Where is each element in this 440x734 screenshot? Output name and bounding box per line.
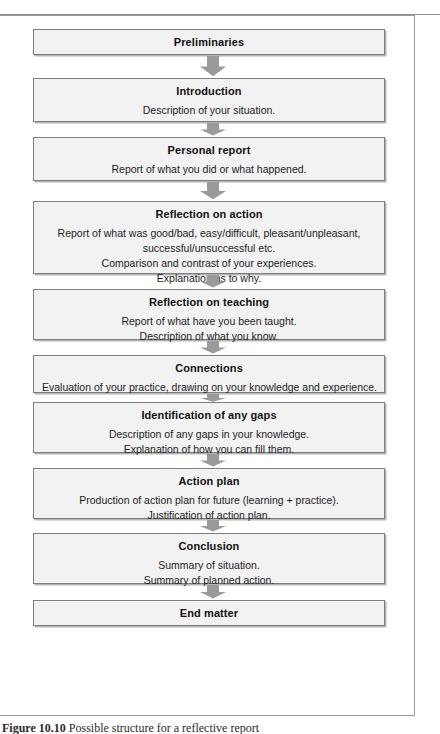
flow-node-line: Description of any gaps in your knowledg…: [42, 427, 376, 442]
flow-arrow-identification-of-any-gaps-to-action-plan: [199, 454, 227, 467]
flow-node-connections: ConnectionsEvaluation of your practice, …: [33, 355, 385, 393]
flow-node-title: Connections: [42, 361, 376, 376]
flow-node-reflection-on-action: Reflection on actionReport of what was g…: [33, 201, 385, 274]
flow-node-line: successful/unsuccessful etc.: [42, 241, 376, 256]
flow-node-line: Report of what have you been taught.: [42, 314, 376, 329]
flow-node-line: Production of action plan for future (le…: [42, 493, 376, 508]
flow-node-title: Personal report: [42, 143, 376, 158]
flow-arrow-conclusion-to-end-matter: [199, 585, 227, 599]
flow-arrow-connections-to-identification-of-any-gaps: [199, 394, 227, 402]
down-arrow-icon: [199, 520, 227, 532]
down-arrow-icon: [199, 341, 227, 354]
flow-arrow-reflection-on-action-to-reflection-on-teaching: [199, 275, 227, 288]
down-arrow-icon: [199, 56, 227, 77]
flow-node-identification-of-any-gaps: Identification of any gapsDescription of…: [33, 402, 385, 453]
down-arrow-icon: [199, 394, 227, 402]
figure-caption-text: Possible structure for a reflective repo…: [69, 721, 259, 734]
flow-arrow-action-plan-to-conclusion: [199, 520, 227, 532]
flow-node-line: Evaluation of your practice, drawing on …: [42, 380, 376, 395]
flow-node-preliminaries: Preliminaries: [33, 29, 385, 55]
flow-node-title: Reflection on action: [42, 207, 376, 222]
figure-caption-label: Figure 10.10: [2, 721, 66, 734]
flow-node-end-matter: End matter: [33, 600, 385, 626]
flow-arrow-reflection-on-teaching-to-connections: [199, 341, 227, 354]
flowchart: PreliminariesIntroductionDescription of …: [0, 15, 415, 716]
flow-node-line: Description of your situation.: [42, 103, 376, 118]
flow-node-personal-report: Personal reportReport of what you did or…: [33, 137, 385, 181]
figure-caption: Figure 10.10 Possible structure for a re…: [2, 721, 432, 734]
flow-node-reflection-on-teaching: Reflection on teachingReport of what hav…: [33, 289, 385, 340]
flow-arrow-introduction-to-personal-report: [199, 123, 227, 136]
flow-node-title: Conclusion: [42, 539, 376, 554]
flow-arrow-preliminaries-to-introduction: [199, 56, 227, 77]
down-arrow-icon: [199, 182, 227, 200]
flow-node-introduction: IntroductionDescription of your situatio…: [33, 78, 385, 122]
flow-node-line: Report of what you did or what happened.: [42, 162, 376, 177]
flow-node-title: Action plan: [42, 474, 376, 489]
down-arrow-icon: [199, 275, 227, 288]
flow-node-conclusion: ConclusionSummary of situation.Summary o…: [33, 533, 385, 584]
flow-node-title: Introduction: [42, 84, 376, 99]
flow-node-title: Identification of any gaps: [42, 408, 376, 423]
flow-node-line: Summary of situation.: [42, 558, 376, 573]
flow-node-title: Reflection on teaching: [42, 295, 376, 310]
flow-node-title: End matter: [42, 606, 376, 621]
down-arrow-icon: [199, 123, 227, 136]
flow-node-line: Comparison and contrast of your experien…: [42, 256, 376, 271]
flow-node-line: Report of what was good/bad, easy/diffic…: [42, 226, 376, 241]
flow-node-action-plan: Action planProduction of action plan for…: [33, 468, 385, 519]
flow-arrow-personal-report-to-reflection-on-action: [199, 182, 227, 200]
down-arrow-icon: [199, 454, 227, 467]
flow-node-title: Preliminaries: [42, 35, 376, 50]
down-arrow-icon: [199, 585, 227, 599]
